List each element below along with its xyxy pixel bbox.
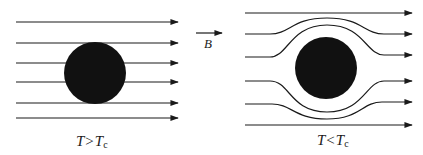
field-label: B [204,36,212,51]
caption-superconducting: T<Tc [317,132,349,149]
caption-normal: T>Tc [76,133,108,150]
field-direction-indicator: B [196,33,222,51]
field-line [245,18,412,34]
field-line [245,102,412,119]
panel-normal-state: T>Tc [16,22,178,150]
sample-sphere [295,37,357,99]
meissner-diagram: T>Tc B T<Tc [0,0,423,155]
sample-sphere [64,42,126,104]
panel-superconducting-state: T<Tc [245,13,412,149]
